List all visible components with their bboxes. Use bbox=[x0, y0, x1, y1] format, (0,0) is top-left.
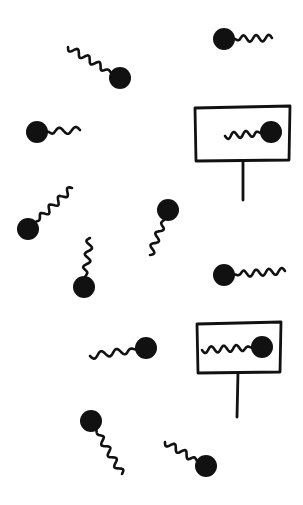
sperm-10 bbox=[165, 442, 217, 477]
sperm-tail bbox=[35, 187, 72, 222]
sperm-head bbox=[80, 410, 102, 432]
sign-2 bbox=[197, 322, 281, 417]
sign-group bbox=[195, 106, 290, 417]
sperm-5 bbox=[150, 199, 179, 255]
sperm-9 bbox=[80, 410, 123, 474]
sperm-head bbox=[73, 276, 95, 298]
sperm-head bbox=[109, 67, 131, 89]
sperm-6 bbox=[73, 238, 95, 298]
sperm-head bbox=[260, 121, 282, 143]
sperm-tail bbox=[234, 35, 272, 42]
sign-1 bbox=[195, 106, 290, 200]
sperm-tail bbox=[234, 268, 285, 277]
sperm-group bbox=[17, 28, 285, 477]
sperm-tail bbox=[47, 127, 80, 134]
sperm-head bbox=[213, 28, 235, 50]
sign-post bbox=[237, 372, 238, 417]
sperm-1 bbox=[68, 47, 131, 89]
sperm-tail bbox=[83, 238, 92, 277]
sperm-tail bbox=[96, 430, 123, 474]
sperm-head bbox=[213, 264, 235, 286]
sperm-tail bbox=[150, 219, 164, 255]
sperm-head bbox=[17, 218, 39, 240]
sperm-8 bbox=[90, 337, 157, 359]
sperm-3 bbox=[26, 121, 80, 143]
sperm-head bbox=[26, 121, 48, 143]
sperm-tail bbox=[165, 442, 197, 461]
sperm-head bbox=[195, 455, 217, 477]
sperm-7 bbox=[213, 264, 285, 286]
illustration-canvas bbox=[0, 0, 303, 505]
sperm-head bbox=[251, 336, 273, 358]
sperm-head bbox=[135, 337, 157, 359]
sperm-head bbox=[157, 199, 179, 221]
sperm-tail bbox=[68, 47, 111, 73]
sperm-4 bbox=[17, 187, 72, 240]
sperm-tail bbox=[90, 349, 136, 359]
sperm-2 bbox=[213, 28, 272, 50]
